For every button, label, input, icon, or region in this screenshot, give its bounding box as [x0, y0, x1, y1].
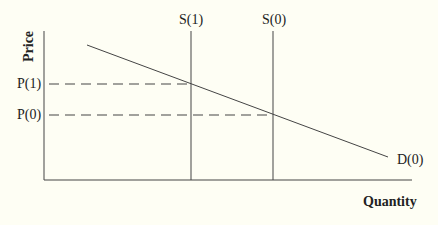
d0-label: D(0) [397, 153, 423, 167]
y-axis-label: Price [22, 31, 36, 62]
p1-label: P(1) [17, 77, 41, 91]
diagram-canvas [0, 0, 438, 225]
demand-line-d0 [87, 45, 388, 157]
x-axis-label: Quantity [363, 195, 417, 209]
s0-label: S(0) [262, 13, 286, 27]
p0-label: P(0) [17, 108, 41, 122]
s1-label: S(1) [179, 13, 203, 27]
